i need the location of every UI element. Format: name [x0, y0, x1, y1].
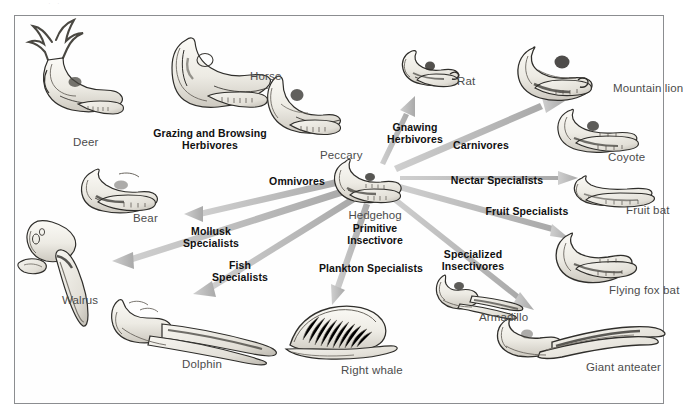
pathway-line-2: Specialists [212, 271, 268, 283]
pathway-label-omnivores: Omnivores [269, 176, 325, 188]
skull-deer [29, 20, 123, 114]
skull-hedgehog-hub [334, 159, 401, 202]
pathway-label-mollusk-specialists: Mollusk Specialists [183, 226, 239, 250]
specimen-label-peccary: Peccary [320, 149, 363, 162]
skull-peccary [268, 76, 341, 134]
specimen-label-coyote: Coyote [608, 151, 645, 164]
pathway-label-fish-specialists: Fish Specialists [212, 260, 268, 284]
pathway-label-grazing-and-browsing-herbivores: Grazing and Browsing Herbivores [153, 128, 266, 152]
pathway-line-1: Fruit Specialists [486, 205, 569, 217]
pathway-line-1: Mollusk [191, 225, 231, 237]
skull-dolphin [112, 300, 277, 365]
pathway-label-plankton-specialists: Plankton Specialists [319, 263, 423, 275]
pathway-line-1: Grazing and Browsing [153, 127, 266, 139]
pathway-line-1: Omnivores [269, 175, 325, 187]
pathway-label-fruit-specialists: Fruit Specialists [486, 206, 569, 218]
hub-common-name: Hedgehog [347, 209, 402, 222]
skull-giant-anteater [497, 319, 664, 359]
pathway-label-carnivores: Carnivores [453, 140, 509, 152]
specimen-label-mountain-lion: Mountain lion [613, 82, 683, 95]
pathway-label-nectar-specialists: Nectar Specialists [451, 175, 543, 187]
specimen-label-walrus: Walrus [62, 294, 98, 307]
pathway-line-2: Herbivores [182, 139, 238, 151]
specimen-label-horse: Horse [250, 70, 281, 83]
skull-right-whale [286, 306, 397, 359]
hub-role-line-2: Insectivore [347, 234, 402, 246]
skull-coyote [558, 109, 639, 152]
specimen-label-bear: Bear [133, 212, 158, 225]
hub-node-label: Hedgehog Primitive Insectivore [347, 209, 402, 246]
skull-bear [81, 169, 157, 213]
pathway-line-1: Fish [229, 259, 251, 271]
specimen-label-rat: Rat [457, 75, 475, 88]
hub-role-line-1: Primitive [347, 222, 402, 234]
skull-walrus [18, 221, 88, 327]
skull-fruit-bat [574, 176, 654, 207]
skull-rat [402, 51, 459, 87]
specimen-label-fruit-bat: Fruit bat [626, 204, 670, 217]
specimen-label-armadillo: Armadillo [479, 311, 528, 324]
pathway-line-1: Carnivores [453, 139, 509, 151]
skull-mountain-lion [518, 47, 592, 100]
specimen-label-flying-fox-bat: Flying fox bat [609, 284, 680, 297]
specimen-label-deer: Deer [73, 136, 99, 149]
pathway-label-gnawing-herbivores: Gnawing Herbivores [387, 122, 443, 146]
pathway-label-specialized-insectivores: Specialized Insectivores [442, 249, 504, 273]
specimen-label-dolphin: Dolphin [182, 358, 222, 371]
skull-flying-fox-bat [556, 233, 636, 283]
pathway-line-2: Herbivores [387, 133, 443, 145]
pathway-line-2: Specialists [183, 237, 239, 249]
pathway-line-1: Nectar Specialists [451, 174, 543, 186]
specimen-label-giant-anteater: Giant anteater [586, 361, 661, 374]
pathway-line-1: Specialized [444, 248, 502, 260]
pathway-line-1: Plankton Specialists [319, 262, 423, 274]
specimen-label-right-whale: Right whale [341, 364, 403, 377]
pathway-line-2: Insectivores [442, 260, 504, 272]
pathway-line-1: Gnawing [392, 121, 437, 133]
